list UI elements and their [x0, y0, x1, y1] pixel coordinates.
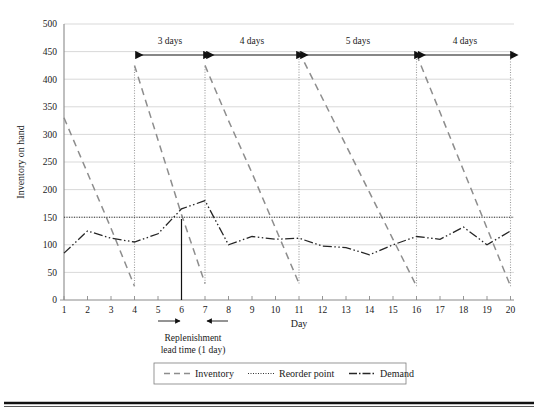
x-axis [64, 296, 514, 300]
series-demand [64, 201, 511, 255]
cycle-annotation-2: 4 days [207, 36, 297, 55]
x-tick-7: 7 [203, 305, 208, 315]
x-tick-9: 9 [250, 305, 255, 315]
x-tick-12: 12 [318, 305, 328, 315]
y-tick-labels: 0 50 100 150 200 250 300 350 400 450 500 [43, 19, 58, 305]
y-gridlines [64, 24, 514, 272]
x-tick-14: 14 [365, 305, 375, 315]
y-tick-100: 100 [43, 240, 58, 250]
series-inventory [64, 52, 511, 287]
x-tick-2: 2 [85, 305, 90, 315]
x-tick-17: 17 [435, 305, 445, 315]
cycle-4-label: 4 days [453, 36, 478, 46]
y-tick-400: 400 [43, 75, 58, 85]
inventory-chart-canvas: 0 50 100 150 200 250 300 350 400 450 500… [0, 0, 538, 411]
legend-label-inventory: Inventory [195, 368, 234, 379]
cycle-2-label: 4 days [240, 36, 265, 46]
cycle-annotation-1: 3 days [136, 36, 204, 55]
y-tick-250: 250 [43, 157, 58, 167]
x-tick-3: 3 [109, 305, 114, 315]
lead-time-annotation: Replenishment lead time (1 day) [158, 219, 228, 356]
legend-label-demand: Demand [380, 368, 414, 379]
x-tick-15: 15 [388, 305, 398, 315]
inventory-segment-5 [417, 54, 511, 286]
x-tick-19: 19 [482, 305, 492, 315]
y-axis [60, 24, 64, 300]
y-tick-450: 450 [43, 47, 58, 57]
cycle-3-label: 5 days [346, 36, 371, 46]
inventory-replenishment-risers [135, 52, 511, 287]
x-axis-title: Day [291, 318, 308, 329]
x-tick-1: 1 [62, 305, 67, 315]
x-tick-16: 16 [412, 305, 422, 315]
cycle-1-label: 3 days [158, 36, 183, 46]
x-tick-11: 11 [294, 305, 303, 315]
cycle-annotation-4: 4 days [419, 36, 512, 55]
y-tick-50: 50 [48, 268, 58, 278]
y-tick-200: 200 [43, 185, 58, 195]
y-tick-300: 300 [43, 130, 58, 140]
x-tick-18: 18 [459, 305, 469, 315]
y-tick-150: 150 [43, 213, 58, 223]
x-tick-13: 13 [341, 305, 351, 315]
x-tick-4: 4 [132, 305, 137, 315]
y-axis-title: Inventory on hand [15, 125, 26, 198]
x-tick-5: 5 [156, 305, 161, 315]
inventory-segment-3 [205, 65, 299, 283]
cycle-annotation-3: 5 days [301, 36, 415, 55]
x-tick-8: 8 [226, 305, 231, 315]
x-tick-6: 6 [179, 305, 184, 315]
x-tick-labels: 1 2 3 4 5 6 7 8 9 10 11 12 13 14 15 16 1… [62, 305, 516, 315]
inventory-cycle-figure: 0 50 100 150 200 250 300 350 400 450 500… [0, 0, 538, 411]
y-tick-350: 350 [43, 102, 58, 112]
figure-bottom-rule [4, 403, 534, 407]
lead-time-label-line1: Replenishment [165, 333, 222, 343]
x-tick-20: 20 [506, 305, 516, 315]
inventory-segment-2 [135, 65, 206, 283]
chart-legend: Inventory Reorder point Demand [154, 363, 414, 384]
lead-time-label-line2: lead time (1 day) [161, 345, 226, 356]
y-tick-0: 0 [52, 295, 57, 305]
x-tick-10: 10 [271, 305, 281, 315]
legend-label-reorder-point: Reorder point [279, 368, 334, 379]
y-tick-500: 500 [43, 19, 58, 29]
inventory-segment-1 [64, 118, 135, 286]
